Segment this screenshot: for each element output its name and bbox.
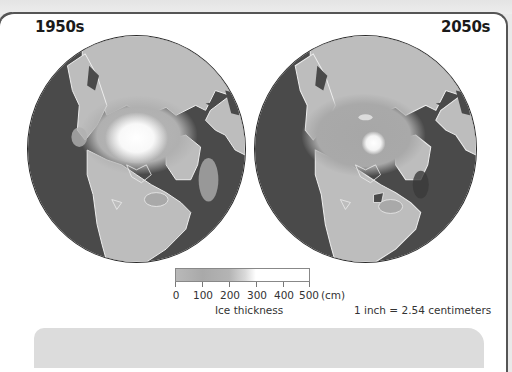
- colorbar-tick-label: 400: [274, 289, 294, 301]
- colorbar-unit: (cm): [321, 289, 345, 301]
- colorbar-tick: [283, 282, 284, 287]
- colorbar-tick: [229, 282, 230, 287]
- colorbar-tick-label: 500: [299, 289, 319, 301]
- ice-thickness-colorbar: [175, 268, 310, 282]
- panel-title-2050s: 2050s: [441, 18, 490, 36]
- arctic-map-1950s: [27, 35, 246, 263]
- colorbar-tick-label: 300: [247, 289, 267, 301]
- colorbar-title: Ice thickness: [215, 304, 283, 316]
- colorbar-tick-label: 0: [173, 289, 180, 301]
- colorbar-tick-label: 200: [220, 289, 240, 301]
- colorbar-tick: [175, 282, 176, 287]
- colorbar-tick: [309, 282, 310, 287]
- colorbar-tick-label: 100: [193, 289, 213, 301]
- arctic-map-2050s: [254, 35, 477, 263]
- colorbar-tick: [202, 282, 203, 287]
- unit-conversion-note: 1 inch = 2.54 centimeters: [354, 304, 491, 316]
- colorbar-tick: [256, 282, 257, 287]
- panel-title-1950s: 1950s: [35, 18, 84, 36]
- bottom-text-panel: [34, 328, 484, 368]
